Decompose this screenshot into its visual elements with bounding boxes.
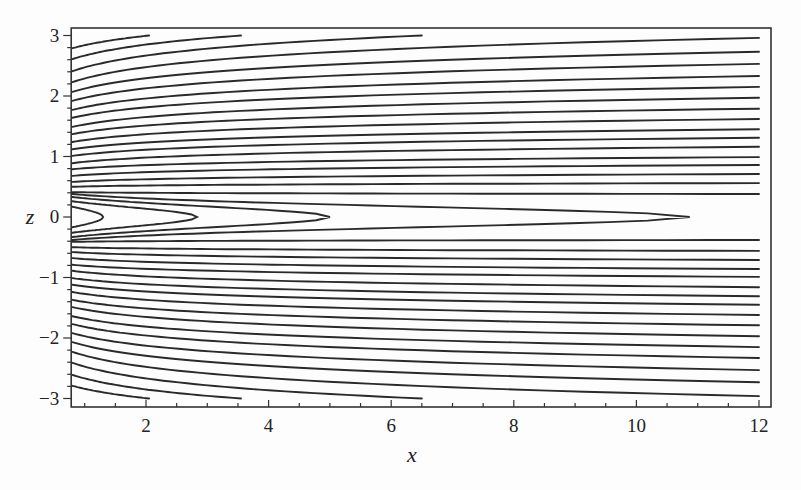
x-tick-label: 4	[264, 415, 274, 436]
contour-line	[72, 36, 421, 72]
contour-line	[72, 240, 759, 242]
closed-contour	[72, 201, 196, 232]
y-tick-label: 0	[50, 206, 60, 227]
y-axis-title: z	[25, 204, 35, 229]
contour-lines	[72, 36, 759, 399]
contour-line	[72, 363, 421, 399]
y-tick-label: −2	[39, 327, 59, 348]
contour-line	[72, 174, 759, 182]
closed-contour	[72, 194, 689, 240]
y-tick-label: 3	[50, 25, 60, 46]
x-tick-label: 8	[509, 415, 519, 436]
x-axis: 24681012	[85, 400, 769, 436]
contour-line	[72, 247, 759, 251]
y-tick-label: −3	[39, 388, 59, 409]
contour-line	[72, 183, 759, 187]
x-tick-label: 12	[750, 415, 769, 436]
y-tick-label: −1	[39, 267, 59, 288]
contour-line	[72, 252, 759, 260]
contour-plot: 24681012 −3−2−10123 x z	[0, 0, 801, 490]
closed-contour	[72, 207, 103, 228]
contour-line	[72, 87, 759, 118]
y-axis: −3−2−10123	[39, 25, 71, 409]
x-axis-title: x	[406, 442, 417, 467]
contour-line	[72, 316, 759, 347]
contour-line	[72, 192, 759, 194]
x-tick-label: 6	[386, 415, 396, 436]
contour-line	[72, 307, 759, 336]
x-tick-label: 10	[627, 415, 646, 436]
contour-line	[72, 98, 759, 127]
x-tick-label: 2	[141, 415, 151, 436]
y-tick-label: 1	[50, 146, 60, 167]
y-tick-label: 2	[50, 85, 60, 106]
